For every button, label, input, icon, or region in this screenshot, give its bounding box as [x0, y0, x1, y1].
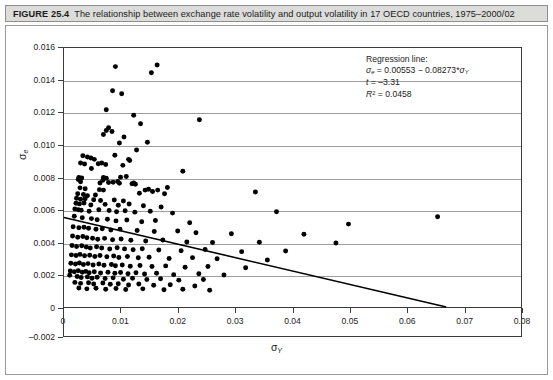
data-point	[75, 191, 80, 196]
data-point	[79, 208, 84, 213]
data-point	[87, 209, 92, 214]
data-point	[103, 287, 108, 292]
data-point	[78, 185, 83, 190]
data-point	[333, 240, 338, 245]
data-point	[154, 271, 159, 276]
data-point	[142, 271, 147, 276]
data-point	[112, 153, 117, 158]
data-point	[80, 215, 85, 220]
x-axis-label-subscript: Y	[277, 347, 282, 355]
data-point	[221, 272, 226, 277]
data-point	[85, 274, 90, 279]
data-point	[283, 249, 288, 254]
annotation-eq-middle: = 0.00553 − 0.08273*	[374, 65, 459, 75]
data-point	[72, 214, 77, 219]
data-point	[70, 234, 75, 239]
data-point	[83, 186, 88, 191]
data-point	[192, 283, 197, 288]
data-point	[180, 169, 185, 174]
annotation-t-value: = –3.31	[368, 77, 399, 87]
data-point	[70, 243, 75, 248]
data-point	[103, 202, 108, 207]
data-point	[128, 238, 133, 243]
data-point	[127, 202, 132, 207]
data-point	[130, 276, 135, 281]
data-point	[145, 140, 150, 145]
data-point	[205, 264, 210, 269]
data-point	[122, 246, 127, 251]
data-point	[96, 261, 101, 266]
data-point	[81, 262, 86, 267]
data-point	[239, 249, 244, 254]
data-point	[135, 228, 140, 233]
figure-title-bar: FIGURE 25.4 The relationship between exc…	[5, 5, 548, 22]
data-point	[435, 214, 440, 219]
data-point	[91, 262, 96, 267]
data-point	[153, 218, 158, 223]
y-tick-label: 0.008	[33, 173, 55, 183]
data-point	[133, 270, 138, 275]
data-point	[133, 182, 138, 187]
data-point	[176, 278, 181, 283]
data-point	[104, 107, 109, 112]
data-point	[116, 203, 121, 208]
data-point	[159, 204, 164, 209]
data-point	[77, 201, 82, 206]
data-point	[301, 232, 306, 237]
data-point	[158, 276, 163, 281]
data-point	[119, 237, 124, 242]
data-point	[94, 227, 99, 232]
data-point	[175, 228, 180, 233]
y-tick-label: 0	[50, 303, 55, 313]
data-point	[111, 180, 116, 185]
data-point	[112, 198, 117, 203]
data-point	[155, 63, 160, 68]
y-tick-label: 0.004	[33, 238, 55, 248]
data-point	[113, 263, 118, 268]
data-point	[118, 270, 123, 275]
data-point	[89, 216, 94, 221]
data-point	[107, 247, 112, 252]
data-point	[98, 198, 103, 203]
y-tick-label: 0.012	[33, 107, 55, 117]
data-point	[124, 174, 129, 179]
data-point	[119, 91, 124, 96]
data-point	[124, 217, 129, 222]
data-point	[103, 162, 108, 167]
data-point	[99, 246, 104, 251]
data-point	[137, 191, 142, 196]
data-point	[110, 237, 115, 242]
data-point	[117, 181, 122, 186]
data-point	[136, 255, 141, 260]
data-point	[253, 190, 258, 195]
data-point	[105, 270, 110, 275]
data-point	[98, 181, 103, 186]
data-point	[149, 70, 154, 75]
data-point	[197, 117, 202, 122]
data-point	[114, 209, 119, 214]
data-point	[80, 153, 85, 158]
data-point	[105, 217, 110, 222]
data-point	[76, 225, 81, 230]
data-point	[127, 158, 132, 163]
data-point	[82, 253, 87, 258]
data-point	[193, 230, 198, 235]
data-point	[102, 236, 107, 241]
data-point	[155, 188, 160, 193]
data-point	[120, 163, 125, 168]
data-point	[94, 244, 99, 249]
x-axis-label: σY	[0, 341, 553, 355]
data-point	[138, 121, 143, 126]
y-tick-label: –0.002	[29, 332, 55, 342]
data-point	[180, 287, 185, 292]
annotation-eq-sub-y: Y	[465, 70, 469, 76]
data-point	[101, 188, 106, 193]
data-point	[84, 235, 89, 240]
data-point	[184, 239, 189, 244]
data-point	[162, 191, 167, 196]
data-point	[82, 161, 87, 166]
data-point	[207, 288, 212, 293]
data-point	[131, 113, 136, 118]
data-point	[90, 236, 95, 241]
annotation-heading: Regression line:	[366, 54, 469, 65]
